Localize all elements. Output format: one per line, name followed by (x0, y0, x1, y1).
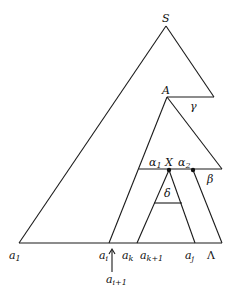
label-alpha2: α2 (178, 156, 191, 170)
alpha2-end-dot (191, 168, 195, 172)
base-label-ai: ai (99, 249, 109, 263)
label-alpha1: α1 (149, 156, 162, 170)
node-label-x: X (164, 156, 174, 169)
node-label-s: S (162, 12, 170, 25)
base-label-a1: a1 (9, 249, 21, 263)
label-beta: β (206, 173, 213, 186)
base-label-lambda: Λ (206, 249, 216, 262)
a-triangle (109, 97, 222, 243)
base-label-aj: aj (185, 249, 195, 263)
base-label-ak1: ak+1 (140, 249, 163, 263)
label-gamma: γ (190, 100, 197, 113)
x-triangle (137, 170, 195, 243)
pointer-label-ai1: ai+1 (106, 273, 127, 287)
s-triangle (19, 26, 214, 243)
node-label-a: A (161, 84, 170, 97)
label-delta: δ (164, 187, 171, 200)
parse-tree-diagram: S A X γ α1 α2 β δ a1 ai ak ak+1 aj Λ ai+… (0, 0, 236, 290)
up-arrow-icon (109, 249, 115, 272)
base-label-ak: ak (122, 249, 134, 263)
